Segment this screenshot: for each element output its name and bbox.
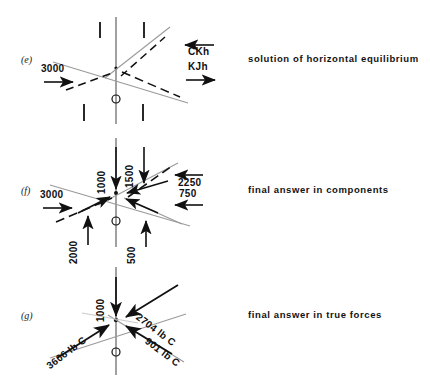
force-label-3000-e: 3000 — [41, 63, 64, 74]
force-label-1500: 1500 — [124, 165, 135, 188]
member-line-down-right — [53, 62, 188, 103]
force-label-750: 750 — [179, 188, 197, 199]
figure-sheet: (e) solution of horizontal equilibrium — [0, 0, 430, 387]
panel-g: (g) final answer in true forces — [0, 257, 430, 387]
force-label-1000-g: 1000 — [95, 299, 106, 322]
arrow-force-lower-right-member — [126, 199, 158, 213]
panel-f-drawing — [0, 125, 430, 257]
force-label-ckh: CKh — [188, 46, 209, 57]
dashed-member-upper-right — [121, 37, 165, 76]
panel-f: (f) final answer in components — [0, 125, 430, 257]
dashed-member-lower-right — [122, 72, 180, 97]
force-label-3000-f: 3000 — [40, 189, 63, 200]
panel-e-drawing — [0, 0, 430, 130]
force-label-kjh: KJh — [188, 61, 208, 72]
panel-e: (e) solution of horizontal equilibrium — [0, 0, 430, 130]
member-line-up-right — [105, 27, 170, 78]
force-label-2250: 2250 — [178, 177, 201, 188]
panel-g-drawing — [0, 257, 430, 387]
force-label-1000-f: 1000 — [96, 171, 107, 194]
arrow-force-lower-left-member — [78, 197, 110, 213]
arrow-force-2704 — [126, 285, 178, 317]
